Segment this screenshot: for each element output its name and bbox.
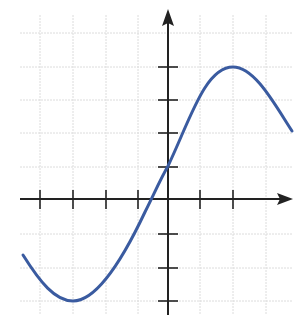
grid (20, 15, 292, 315)
sine-curve (23, 67, 292, 301)
function-graph (0, 0, 303, 315)
